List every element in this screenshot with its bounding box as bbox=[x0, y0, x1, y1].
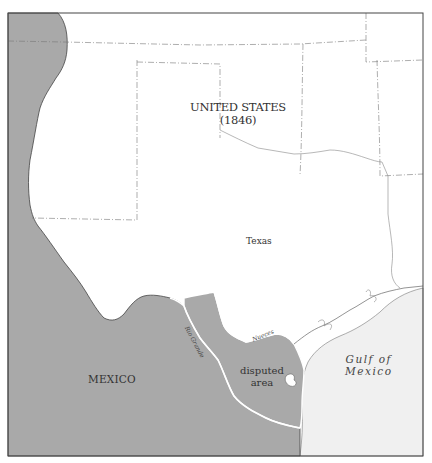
year-label: (1846) bbox=[190, 114, 286, 127]
disputed-line1: disputed bbox=[240, 365, 284, 377]
map-canvas bbox=[0, 0, 432, 463]
gulf-of-mexico-label: Gulf of Mexico bbox=[345, 353, 392, 377]
gulf-line1: Gulf of bbox=[345, 353, 392, 365]
gulf-line2: Mexico bbox=[345, 365, 392, 377]
united-states-label: UNITED STATES (1846) bbox=[190, 101, 286, 127]
disputed-line2: area bbox=[240, 377, 284, 389]
texas-label: Texas bbox=[246, 236, 272, 246]
disputed-area-label: disputed area bbox=[240, 365, 284, 388]
mexico-label: MEXICO bbox=[88, 373, 136, 385]
